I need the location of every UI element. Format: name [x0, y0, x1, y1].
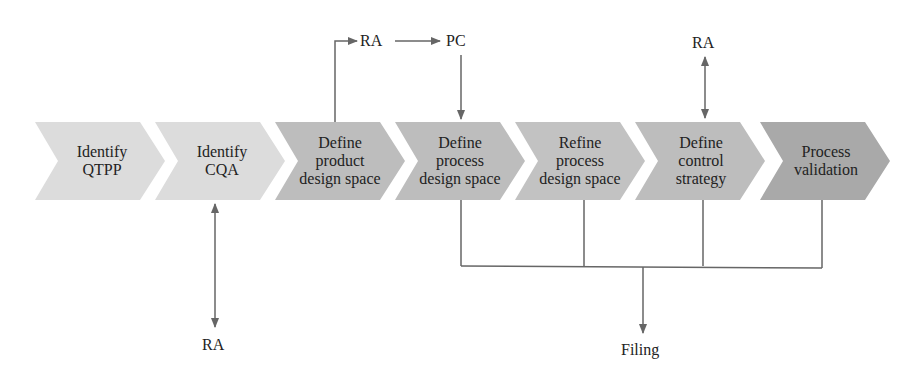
step-refine-process-design-space: Refine process design space — [520, 134, 640, 188]
step-define-process-design-space: Define process design space — [400, 134, 520, 188]
ra-top-left-label: RA — [360, 32, 382, 50]
ra-top-right-label: RA — [692, 34, 714, 52]
filing-bracket — [461, 266, 822, 268]
filing-label: Filing — [621, 341, 659, 359]
step-identify-qtpp: Identify QTPP — [42, 143, 162, 179]
ra-bottom-label: RA — [202, 336, 224, 354]
pc-label: PC — [446, 32, 466, 50]
step-process-validation: Process validation — [766, 143, 886, 179]
qbd-process-diagram — [0, 0, 915, 377]
step-define-product-design-space: Define product design space — [280, 134, 400, 188]
step-identify-cqa: Identify CQA — [162, 143, 282, 179]
bottom-connectors — [215, 200, 822, 333]
product-to-ra-arrow — [335, 41, 357, 122]
step-define-control-strategy: Define control strategy — [641, 134, 761, 188]
top-connectors — [335, 41, 705, 122]
